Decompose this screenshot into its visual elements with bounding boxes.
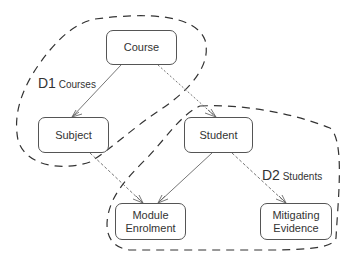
domain-d1-name: Courses (59, 79, 96, 90)
domain-d2-code: D2 (262, 167, 280, 183)
domain-d2-name: Students (283, 171, 322, 182)
rel-course-subject (72, 65, 121, 117)
entity-subject[interactable]: Subject (38, 117, 109, 153)
crowfoot-student (205, 109, 216, 117)
crowfoot-module-right (158, 195, 168, 203)
entity-course-label: Course (124, 41, 159, 54)
rel-course-student (158, 65, 216, 117)
entity-subject-label: Subject (55, 129, 92, 142)
entity-course[interactable]: Course (106, 30, 177, 65)
entity-student[interactable]: Student (184, 117, 253, 153)
crowfoot-evidence (276, 195, 286, 203)
rel-student-module (158, 153, 212, 203)
crowfoot-module-left (133, 195, 143, 203)
entity-module-enrolment[interactable]: Module Enrolment (115, 203, 186, 240)
domain-d1-label: D1 Courses (38, 75, 96, 91)
entity-mitigating-evidence-label: Mitigating Evidence (272, 209, 319, 235)
domain-d1-code: D1 (38, 75, 56, 91)
entity-module-enrolment-label: Module Enrolment (125, 209, 175, 235)
entity-student-label: Student (200, 129, 238, 142)
domain-d2-label: D2 Students (262, 167, 322, 183)
entity-mitigating-evidence[interactable]: Mitigating Evidence (260, 203, 332, 240)
rel-subject-module (90, 153, 143, 203)
